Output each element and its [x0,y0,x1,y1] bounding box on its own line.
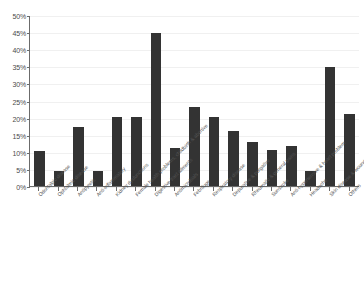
y-axis-tick-label: 20% [13,115,26,122]
bar-chart: 50%45%40%35%30%25%20%15%10%5%0% Odontalg… [0,0,364,291]
y-axis-tick-label: 15% [13,132,26,139]
x-axis-tick-label: Depurative & purgative [231,193,235,197]
y-axis-tick-label: 35% [13,64,26,71]
bar-slot [88,16,107,186]
y-axis-tick-label: 25% [13,98,26,105]
x-axis-tick-label: Headache [308,193,312,197]
x-axis-tick-label: Rheumatic & general pains [250,193,254,197]
bar-slot [127,16,146,186]
y-axis-tick-label: 45% [13,30,26,37]
bar-slot [243,16,262,186]
bar[interactable] [151,33,161,186]
x-axis-tick-label: Odontalgic disease [37,193,41,197]
x-axis-tick-label: Respiratory disease [211,193,215,197]
y-axis-tick-label: 40% [13,47,26,54]
y-axis: 50%45%40%35%30%25%20%15%10%5%0% [0,0,26,291]
y-axis-tick-label: 30% [13,81,26,88]
bar[interactable] [34,151,44,186]
y-axis-tick-label: 50% [13,13,26,20]
x-axis: Odontalgic diseaseOphtalmic diseaseAntip… [29,191,359,291]
bar-slot [69,16,88,186]
bar-slot [224,16,243,186]
x-axis-tick-label: Sunstroke [270,193,274,197]
x-axis-tick-label: Ophtalmic disease [56,193,60,197]
bar-slot [146,16,165,186]
x-axis-tick-label: Female health problems, childbirth & abo… [134,193,138,197]
x-axis-tick-label: Antimicrobials [172,193,176,197]
x-axis-tick-label: Antipyretic [75,193,79,197]
bar-slot [49,16,68,186]
bar-slot [301,16,320,186]
x-axis-tick-label: Digestive tract ailments [153,193,157,197]
y-axis-tick-label: 10% [13,149,26,156]
x-axis-tick-label: Others [347,193,351,197]
bar-series [30,16,359,186]
bar-slot [340,16,359,186]
y-axis-tick-label: 5% [16,166,26,173]
x-axis-tick-label: Anti-hypertensive & heart problem [289,193,293,197]
y-axis-tick-label: 0% [16,184,26,191]
x-axis-tick-label: Anti-inflammatory [95,193,99,197]
bar[interactable] [325,67,335,186]
bar[interactable] [209,117,219,186]
x-axis-tick-label: Skin disease & wounds [328,193,332,197]
bar-slot [107,16,126,186]
plot-area [29,16,359,187]
x-axis-tick-label: Febrifuge [192,193,196,197]
x-axis-tick-label: Kidney dysfunctions [114,193,118,197]
bar-slot [30,16,49,186]
bar-slot [204,16,223,186]
